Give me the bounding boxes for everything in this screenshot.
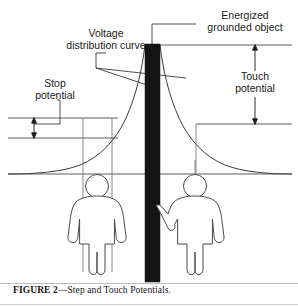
label-stop-potential-line2: potential xyxy=(35,89,75,101)
step-touch-potential-diagram: Voltage distribution curve Energized gro… xyxy=(0,0,298,285)
right-person-body-and-extended-arm xyxy=(156,196,224,275)
leader-voltage-curve-stem xyxy=(96,53,106,68)
caption-rule-bottom xyxy=(0,304,298,305)
person-standing-step-potential xyxy=(68,175,126,275)
left-person-head xyxy=(86,175,109,198)
label-energized-grounded-object-line2: grounded object xyxy=(207,21,282,33)
label-voltage-distribution-curve-line1: Voltage xyxy=(88,27,123,39)
person-touching-grounded-object xyxy=(156,175,224,275)
energized-grounded-object-pole xyxy=(145,44,160,282)
curve-right-branch xyxy=(160,45,292,174)
label-voltage-distribution-curve-line2: distribution curve xyxy=(66,39,146,51)
step-potential-reference-lines xyxy=(8,118,118,138)
label-stop-potential-line1: Stop xyxy=(44,77,66,89)
leader-stop-potential xyxy=(34,100,60,124)
label-touch-potential-line2: potential xyxy=(235,82,275,94)
figure-caption: FIGURE 2—Step and Touch Potentials. xyxy=(13,285,171,295)
step-potential-dimension-arrow xyxy=(32,118,37,139)
figure-caption-text: Step and Touch Potentials. xyxy=(67,285,171,295)
label-touch-potential-line1: Touch xyxy=(241,70,269,82)
label-energized-grounded-object-line1: Energized xyxy=(221,9,268,21)
curve-left-branch xyxy=(8,45,145,174)
figure-caption-label: FIGURE 2 xyxy=(13,285,58,295)
right-person-head xyxy=(184,175,207,198)
figure-caption-area: FIGURE 2—Step and Touch Potentials. xyxy=(0,283,298,307)
figure-container: Voltage distribution curve Energized gro… xyxy=(0,0,298,307)
caption-rule-top xyxy=(0,283,298,284)
left-person-body xyxy=(68,196,126,275)
leader-energized-grounded-object xyxy=(152,24,196,44)
